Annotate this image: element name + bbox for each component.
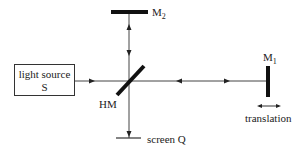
arrow-right-icon: [89, 79, 95, 84]
light-source-box: light source S: [14, 64, 75, 96]
light-source-label: light source: [15, 68, 74, 81]
screen-label: screen Q: [147, 134, 186, 145]
arrow-down-icon: [127, 50, 132, 56]
m2-letter: M: [152, 6, 162, 18]
translation-label: translation: [245, 113, 291, 124]
arrow-down-to-screen-icon: [127, 131, 132, 137]
arrow-left-icon: [257, 104, 262, 108]
light-source-symbol: S: [15, 81, 74, 94]
mirror-m1: [266, 66, 270, 97]
arrow-left-icon: [176, 79, 182, 84]
arrow-right-icon: [276, 104, 281, 108]
arrow-right-icon: [224, 79, 230, 84]
hm-label: HM: [99, 99, 117, 110]
m1-subscript: 1: [273, 57, 277, 66]
m1-label: M1: [263, 52, 277, 66]
m2-label: M2: [152, 7, 166, 21]
mirror-m2: [111, 10, 148, 14]
arrow-up-icon: [127, 24, 132, 30]
m1-letter: M: [263, 51, 273, 63]
m2-subscript: 2: [162, 12, 166, 21]
